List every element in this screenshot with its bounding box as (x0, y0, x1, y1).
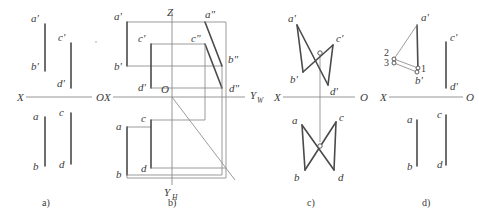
panel-d-segment-ab-frontal (417, 25, 418, 71)
panel-b-label-a: a (116, 120, 122, 132)
panel-b: X Y W Z Y H O a' b' c' d' a" b" c" d" a … (103, 6, 264, 209)
panel-a-label-a-prime: a' (31, 12, 40, 24)
panel-a-label-b: b (33, 160, 39, 172)
panel-c: X O a' b' c' d' a b c d c) (273, 12, 368, 209)
panel-a-label-d-prime: d' (57, 77, 66, 89)
descriptive-geometry-figure: X O a' b' c' d' a b c d a) (0, 0, 479, 219)
panel-c-segment-cd-frontal (328, 45, 333, 85)
panel-b-label-d-dprime: d" (229, 82, 240, 94)
panel-b-caption: b) (168, 197, 176, 209)
panel-b-label-d: d (141, 162, 147, 174)
panel-a-axis-label-o: O (96, 91, 104, 103)
panel-d-label-b-prime: b' (415, 74, 424, 86)
panel-b-axis-label-x: X (103, 91, 112, 103)
panel-c-line-a-prime-d-prime (297, 25, 328, 85)
panel-b-label-a-prime: a' (114, 10, 123, 22)
panel-c-axis-label-o: O (360, 91, 368, 103)
panel-a-label-c: c (59, 106, 64, 118)
panel-d: X O a' b' c' d' a b c d 1 2 3 d) (379, 11, 474, 209)
panel-d-label-b: b (407, 160, 413, 172)
panel-b-label-c-prime: c' (138, 32, 146, 44)
panel-c-segment-ab-horizontal (302, 125, 305, 170)
panel-b-axis-label-z: Z (167, 6, 174, 18)
panel-a-label-a: a (33, 110, 39, 122)
figure-canvas: X O a' b' c' d' a b c d a) (0, 0, 479, 219)
panel-c-crossing-node-horizontal (318, 144, 322, 148)
panel-c-segment-cd-horizontal (334, 122, 336, 170)
panel-d-axis-label-o: O (466, 91, 474, 103)
panel-c-label-a-prime: a' (288, 12, 297, 24)
panel-b-label-c: c (141, 112, 146, 124)
panel-d-line-a-prime-to-2 (394, 25, 417, 59)
panel-c-caption: c) (307, 197, 315, 209)
panel-c-label-a: a (292, 114, 298, 126)
panel-d-label-point-3: 3 (384, 57, 389, 68)
panel-b-label-b-dprime: b" (228, 53, 239, 65)
panel-a-axis-label-x: X (16, 91, 25, 103)
panel-d-caption: d) (422, 197, 430, 209)
panel-a-label-d: d (59, 158, 65, 170)
panel-b-origin-label: O (161, 83, 169, 95)
panel-b-axis-label-yw-sub: W (257, 96, 264, 105)
panel-d-label-point-1: 1 (421, 63, 426, 74)
panel-b-label-c-dprime: c" (191, 32, 201, 44)
panel-a-label-b-prime: b' (31, 60, 40, 72)
panel-d-label-a: a (407, 113, 413, 125)
panel-c-label-b: b (294, 171, 300, 183)
panel-d-label-d-prime: d' (450, 80, 459, 92)
panel-d-label-d: d (437, 158, 443, 170)
panel-d-label-a-prime: a' (421, 11, 430, 23)
panel-d-line-2-to-1 (394, 59, 418, 68)
panel-d-label-c: c (437, 108, 442, 120)
panel-a-caption: a) (42, 197, 50, 209)
panel-c-line-b-prime-c-prime (303, 45, 333, 72)
panel-b-label-d-prime: d' (138, 81, 147, 93)
panel-d-label-c-prime: c' (450, 31, 458, 43)
panel-d-line-3-to-b-prime (394, 63, 417, 72)
panel-b-label-a-dprime: a" (205, 8, 216, 20)
panel-d-node-2 (392, 57, 396, 61)
panel-c-label-b-prime: b' (290, 73, 299, 85)
panel-d-node-3 (392, 61, 396, 65)
panel-b-label-b: b (116, 168, 122, 180)
panel-c-label-c-prime: c' (336, 32, 344, 44)
panel-b-label-b-prime: b' (114, 60, 123, 72)
panel-c-axis-label-x: X (273, 91, 282, 103)
panel-c-crossing-node-frontal (318, 51, 322, 55)
panel-d-node-1 (416, 66, 420, 70)
panel-c-label-d: d (338, 171, 344, 183)
panel-d-axis-label-x: X (379, 91, 388, 103)
panel-a-speck (95, 41, 97, 43)
panel-a: X O a' b' c' d' a b c d a) (16, 12, 104, 209)
panel-c-label-c: c (339, 111, 344, 123)
panel-b-segment-ab-profile (205, 22, 222, 66)
panel-a-label-c-prime: c' (58, 31, 66, 43)
panel-c-label-d-prime: d' (330, 85, 339, 97)
panel-b-bisector-45 (172, 97, 235, 180)
